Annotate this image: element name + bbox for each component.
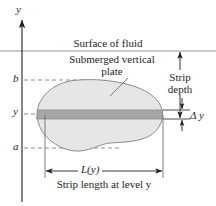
figure-caption: Strip length at level y (0, 179, 208, 191)
strip-at-level-y (37, 110, 163, 119)
tick-label-y: y (13, 106, 18, 118)
length-label: L(y) (78, 164, 102, 176)
strip-depth-label-line2: depth (150, 84, 210, 96)
figure-canvas (0, 0, 216, 206)
tick-label-a: a (13, 141, 19, 153)
delta-y-label: Δ y (190, 110, 204, 122)
figure-submerged-vertical-plate: y Surface of fluid Submerged vertical pl… (0, 0, 216, 206)
strip-depth-label: Strip depth (150, 72, 210, 96)
submerged-plate-label-line1: Submerged vertical (69, 53, 155, 65)
strip-depth-label-line1: Strip (169, 71, 190, 83)
surface-of-fluid-label: Surface of fluid (0, 38, 216, 50)
tick-label-b: b (13, 73, 19, 85)
y-axis-label: y (16, 4, 21, 16)
